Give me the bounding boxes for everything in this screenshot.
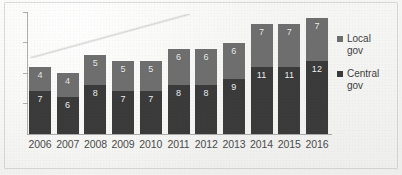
- bar-2007[interactable]: 46: [57, 73, 79, 134]
- bar-segment-local-2008: 5: [84, 55, 106, 86]
- bar-segment-central-2008: 8: [84, 85, 106, 134]
- legend-label-local-gov: Localgov: [347, 33, 371, 57]
- bar-segment-local-2006: 4: [29, 67, 51, 91]
- bar-value-local-2011: 6: [176, 49, 181, 62]
- bar-segment-central-2012: 8: [195, 85, 217, 134]
- x-axis-labels: 2006200720082009201020112012201320142015…: [27, 138, 332, 156]
- bar-value-local-2014: 7: [259, 24, 264, 37]
- bar-value-local-2008: 5: [93, 55, 98, 68]
- bar-2010[interactable]: 57: [140, 61, 162, 134]
- legend-swatch-icon-central-gov: [337, 71, 343, 77]
- bar-2006[interactable]: 47: [29, 67, 51, 134]
- bar-segment-central-2016: 12: [306, 61, 328, 134]
- legend-item-central-gov[interactable]: Centralgov: [337, 68, 399, 92]
- bar-segment-central-2007: 6: [57, 97, 79, 134]
- x-axis-label-2014: 2014: [248, 138, 275, 150]
- bar-2014[interactable]: 711: [251, 24, 273, 134]
- x-axis-label-2007: 2007: [54, 138, 81, 150]
- bar-segment-local-2007: 4: [57, 73, 79, 97]
- bar-2009[interactable]: 57: [112, 61, 134, 134]
- bar-value-central-2010: 7: [148, 91, 153, 104]
- bar-value-local-2016: 7: [314, 18, 319, 31]
- bar-segment-local-2009: 5: [112, 61, 134, 92]
- bar-value-central-2015: 11: [284, 67, 294, 80]
- bar-value-central-2016: 12: [312, 61, 322, 74]
- x-axis-label-2006: 2006: [27, 138, 54, 150]
- bar-value-local-2010: 5: [148, 61, 153, 74]
- bar-value-central-2007: 6: [65, 97, 70, 110]
- bar-2016[interactable]: 712: [306, 18, 328, 134]
- bar-value-local-2015: 7: [287, 24, 292, 37]
- bar-value-central-2012: 8: [204, 85, 209, 98]
- x-axis-line: [27, 134, 332, 135]
- bar-value-local-2007: 4: [65, 73, 70, 86]
- bar-value-central-2006: 7: [37, 91, 42, 104]
- bar-segment-central-2011: 8: [168, 85, 190, 134]
- bar-value-local-2009: 5: [120, 61, 125, 74]
- bar-segment-local-2015: 7: [278, 24, 300, 67]
- bar-2012[interactable]: 68: [195, 49, 217, 134]
- bar-segment-central-2010: 7: [140, 91, 162, 134]
- bar-segment-local-2010: 5: [140, 61, 162, 92]
- x-axis-label-2016: 2016: [304, 138, 331, 150]
- x-axis-label-2008: 2008: [82, 138, 109, 150]
- chart-page: 4746585757686869711711712 20062007200820…: [0, 0, 402, 175]
- bar-segment-local-2012: 6: [195, 49, 217, 86]
- bar-segment-local-2011: 6: [168, 49, 190, 86]
- x-axis-label-2010: 2010: [137, 138, 164, 150]
- bar-2011[interactable]: 68: [168, 49, 190, 134]
- bar-value-local-2012: 6: [204, 49, 209, 62]
- bar-value-central-2008: 8: [93, 85, 98, 98]
- bar-segment-local-2013: 6: [223, 43, 245, 80]
- x-axis-label-2013: 2013: [220, 138, 247, 150]
- bar-segment-central-2006: 7: [29, 91, 51, 134]
- legend-item-local-gov[interactable]: Localgov: [337, 33, 399, 57]
- bar-segment-central-2013: 9: [223, 79, 245, 134]
- bar-value-central-2014: 11: [257, 67, 267, 80]
- bar-value-local-2013: 6: [231, 43, 236, 56]
- bar-2015[interactable]: 711: [278, 24, 300, 134]
- bar-segment-central-2009: 7: [112, 91, 134, 134]
- chart-legend: LocalgovCentralgov: [337, 33, 399, 103]
- x-axis-label-2009: 2009: [110, 138, 137, 150]
- bar-value-central-2009: 7: [120, 91, 125, 104]
- x-axis-label-2011: 2011: [165, 138, 192, 150]
- x-axis-label-2015: 2015: [276, 138, 303, 150]
- bar-segment-local-2016: 7: [306, 18, 328, 61]
- bar-2013[interactable]: 69: [223, 43, 245, 134]
- bar-value-local-2006: 4: [37, 67, 42, 80]
- bar-segment-central-2015: 11: [278, 67, 300, 134]
- bar-2008[interactable]: 58: [84, 55, 106, 134]
- legend-label-central-gov: Centralgov: [347, 68, 379, 92]
- x-axis-label-2012: 2012: [193, 138, 220, 150]
- bar-segment-central-2014: 11: [251, 67, 273, 134]
- bars-container: 4746585757686869711711712: [27, 12, 332, 134]
- bar-value-central-2013: 9: [231, 79, 236, 92]
- legend-swatch-icon-local-gov: [337, 36, 343, 42]
- bar-value-central-2011: 8: [176, 85, 181, 98]
- bar-segment-local-2014: 7: [251, 24, 273, 67]
